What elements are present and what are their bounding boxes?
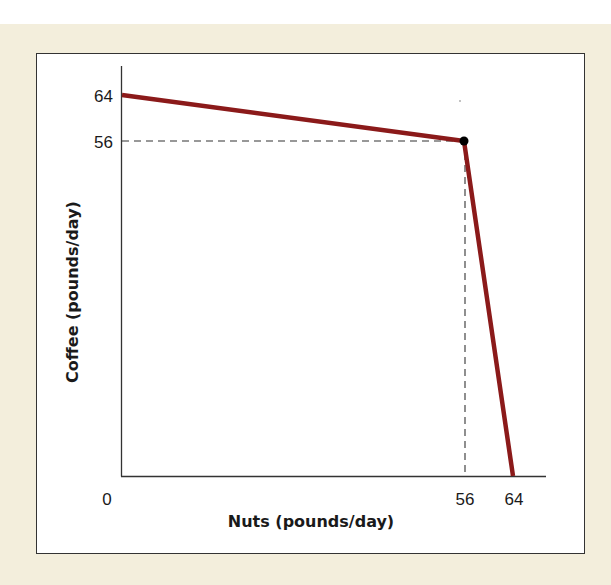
x-tick-0: 0	[102, 490, 111, 509]
ppf-line	[122, 95, 513, 476]
y-tick-56: 56	[94, 133, 113, 152]
speck	[459, 100, 461, 102]
x-tick-64: 64	[505, 490, 524, 509]
ppf-chart: 64 56 0 56 64 Nuts (pounds/day) Coffee (…	[0, 0, 611, 585]
y-axis-label: Coffee (pounds/day)	[63, 201, 82, 383]
x-axis-label: Nuts (pounds/day)	[228, 512, 394, 531]
y-tick-64: 64	[94, 87, 113, 106]
x-tick-56: 56	[456, 490, 475, 509]
highlight-point	[460, 137, 469, 146]
